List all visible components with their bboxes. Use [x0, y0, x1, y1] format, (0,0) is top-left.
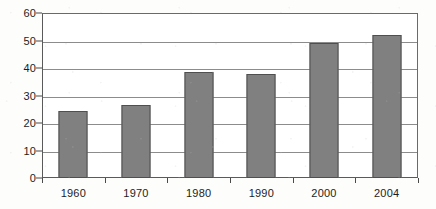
x-axis-tick-mark — [355, 178, 356, 183]
y-axis-tick-label: 40 — [2, 63, 36, 74]
bar-slot — [42, 13, 105, 178]
y-axis-tick-label: 30 — [2, 90, 36, 101]
x-axis-tick-mark — [293, 178, 294, 183]
bar-1990 — [247, 74, 276, 179]
bar-slot — [105, 13, 168, 178]
bar-slot — [293, 13, 356, 178]
x-axis: 196019701980199020002004 — [42, 178, 418, 209]
x-axis-tick-mark — [167, 178, 168, 183]
bar-series — [42, 13, 418, 178]
bar-2000 — [309, 43, 338, 178]
x-axis-tick-mark — [105, 178, 106, 183]
bar-slot — [355, 13, 418, 178]
y-axis-tick-label: 0 — [2, 173, 36, 184]
bar-slot — [167, 13, 230, 178]
bar-1980 — [184, 72, 213, 178]
bar-2004 — [372, 35, 401, 178]
y-axis-tick-label: 60 — [2, 8, 36, 19]
x-axis-category-label: 1960 — [61, 188, 86, 199]
y-axis-tick-label: 50 — [2, 35, 36, 46]
x-axis-category-label: 2004 — [374, 188, 399, 199]
x-axis-tick-mark — [418, 178, 419, 183]
x-axis-tick-mark — [230, 178, 231, 183]
bar-chart: 0102030405060 196019701980199020002004 — [0, 0, 436, 209]
bar-1970 — [121, 105, 150, 178]
bar-slot — [230, 13, 293, 178]
x-axis-tick-mark — [42, 178, 43, 183]
y-axis-tick-label: 20 — [2, 118, 36, 129]
x-axis-category-label: 1990 — [249, 188, 274, 199]
y-axis-tick-label: 10 — [2, 145, 36, 156]
x-axis-category-label: 1980 — [186, 188, 211, 199]
y-axis: 0102030405060 — [0, 0, 42, 209]
x-axis-category-label: 1970 — [123, 188, 148, 199]
bar-1960 — [59, 111, 88, 178]
x-axis-category-label: 2000 — [311, 188, 336, 199]
